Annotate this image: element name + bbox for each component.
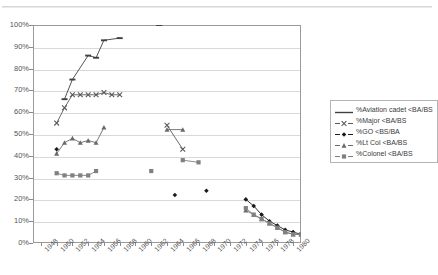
data-point-dash xyxy=(101,39,107,41)
series-line xyxy=(57,93,120,124)
y-axis-tick-label: 20% xyxy=(0,195,29,203)
data-point-square xyxy=(342,154,346,158)
data-point-dash xyxy=(93,57,99,59)
data-point-dash xyxy=(69,79,75,81)
data-point-x xyxy=(165,123,170,128)
data-point-square xyxy=(299,232,301,236)
data-point-triangle xyxy=(86,138,91,143)
series-line xyxy=(183,160,199,162)
x-axis-tick-mark xyxy=(104,243,105,246)
y-axis-tick-label: 90% xyxy=(0,43,29,51)
data-point-square xyxy=(149,169,153,173)
chart-legend: %Aviation cadet <BA/BS%Major <BA/BS%GO <… xyxy=(330,100,438,163)
data-point-dash xyxy=(117,37,123,39)
data-point-square xyxy=(196,160,200,164)
legend-label: %Major <BA/BS xyxy=(356,115,406,126)
legend-item: %Colonel <BA/BS xyxy=(334,148,433,159)
y-axis-tick-label: 10% xyxy=(0,217,29,225)
legend-label: %Lt Col <BA/BS xyxy=(356,137,407,148)
data-point-square xyxy=(275,226,279,230)
legend-swatch-dash-icon xyxy=(334,104,354,115)
data-point-square xyxy=(78,173,82,177)
data-point-dash xyxy=(62,98,68,100)
data-point-square xyxy=(62,173,66,177)
legend-label: %Aviation cadet <BA/BS xyxy=(356,104,433,115)
chart-screenshot: 0%10%20%30%40%50%60%70%80%90%100% 194819… xyxy=(0,0,438,275)
legend-label: %Colonel <BA/BS xyxy=(356,148,413,159)
x-axis-tick-mark xyxy=(293,243,294,246)
data-point-dash xyxy=(85,55,91,57)
data-point-diamond xyxy=(204,188,209,193)
data-point-triangle xyxy=(101,125,106,130)
x-axis-tick-mark xyxy=(135,243,136,246)
data-point-square xyxy=(244,206,248,210)
y-axis: 0%10%20%30%40%50%60%70%80%90%100% xyxy=(0,19,33,249)
y-axis-tick-label: 0% xyxy=(0,239,29,247)
data-point-x xyxy=(54,121,59,126)
legend-item: %Major <BA/BS xyxy=(334,115,433,126)
legend-swatch-x-icon xyxy=(334,115,354,126)
series-2 xyxy=(54,147,301,237)
data-point-square xyxy=(86,173,90,177)
series-4 xyxy=(55,158,301,236)
data-point-x xyxy=(180,147,185,152)
series-1 xyxy=(54,90,185,151)
series-0 xyxy=(62,25,163,100)
data-point-square xyxy=(283,230,287,234)
legend-swatch-triangle-icon xyxy=(334,137,354,148)
data-point-square xyxy=(252,213,256,217)
y-axis-tick-label: 70% xyxy=(0,86,29,94)
series-line xyxy=(167,125,183,149)
x-axis-tick-mark xyxy=(120,243,121,246)
x-axis-tick-mark xyxy=(151,243,152,246)
data-point-square xyxy=(94,169,98,173)
x-axis-tick-mark xyxy=(72,243,73,246)
chart-data-layer xyxy=(33,25,301,243)
data-point-square xyxy=(181,158,185,162)
legend-item: %Lt Col <BA/BS xyxy=(334,137,433,148)
y-axis-tick-label: 100% xyxy=(0,21,29,29)
y-axis-tick-label: 80% xyxy=(0,65,29,73)
data-point-x xyxy=(62,105,67,110)
data-point-square xyxy=(291,232,295,236)
x-axis-tick-mark xyxy=(88,243,89,246)
data-point-triangle xyxy=(70,136,75,141)
x-axis-tick-mark xyxy=(230,243,231,246)
data-point-triangle xyxy=(342,143,347,148)
data-point-square xyxy=(55,171,59,175)
y-axis-tick-label: 60% xyxy=(0,108,29,116)
legend-item: %Aviation cadet <BA/BS xyxy=(334,104,433,115)
truncated-top-text xyxy=(8,0,128,6)
data-point-diamond xyxy=(173,193,178,198)
legend-swatch-square-icon xyxy=(334,148,354,159)
x-axis-tick-mark xyxy=(277,243,278,246)
data-point-square xyxy=(70,173,74,177)
x-axis-tick-mark xyxy=(199,243,200,246)
series-line xyxy=(65,38,120,99)
legend-swatch-diamond-icon xyxy=(334,126,354,137)
y-axis-tick-label: 40% xyxy=(0,152,29,160)
data-point-square xyxy=(259,217,263,221)
x-axis-tick-mark xyxy=(262,243,263,246)
y-axis-tick-label: 50% xyxy=(0,130,29,138)
y-axis-tick-label: 30% xyxy=(0,174,29,182)
x-axis: 1948195019521954195619581960196219641966… xyxy=(33,243,301,275)
top-divider-rule xyxy=(2,6,432,8)
x-axis-tick-mark xyxy=(183,243,184,246)
legend-item: %GO <BS/BA xyxy=(334,126,433,137)
data-point-triangle xyxy=(62,140,67,145)
x-axis-tick-mark xyxy=(41,243,42,246)
data-point-square xyxy=(267,221,271,225)
legend-label: %GO <BS/BA xyxy=(356,126,400,137)
x-axis-tick-mark xyxy=(57,243,58,246)
x-axis-tick-mark xyxy=(214,243,215,246)
data-point-x xyxy=(102,90,107,95)
x-axis-tick-mark xyxy=(167,243,168,246)
data-point-dash xyxy=(156,25,162,26)
x-axis-tick-mark xyxy=(246,243,247,246)
